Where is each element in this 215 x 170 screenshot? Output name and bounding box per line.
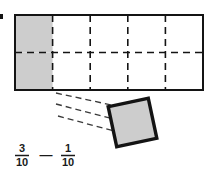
pull-out-guide-1 xyxy=(56,93,116,106)
fraction-term-2-numerator: 1 xyxy=(65,142,71,154)
fraction-term-1-denominator: 10 xyxy=(16,156,28,168)
pull-out-guide-2 xyxy=(56,104,114,119)
fraction-expression: 3 10 — 1 10 xyxy=(15,142,75,168)
edge-artifact-mark xyxy=(0,14,3,19)
shaded-cell-row1-col1 xyxy=(15,15,53,53)
pull-out-guides xyxy=(56,93,116,131)
fraction-term-1-numerator: 3 xyxy=(19,142,25,154)
fraction-term-2: 1 10 xyxy=(61,142,75,168)
fraction-term-1: 3 10 xyxy=(15,142,29,168)
pull-out-guide-3 xyxy=(58,116,114,131)
figure-canvas: 3 10 — 1 10 xyxy=(0,0,215,170)
tenths-bar xyxy=(15,15,203,90)
shaded-cell-row2-col1 xyxy=(15,53,53,91)
removed-tenth-square xyxy=(108,98,157,147)
fraction-term-2-denominator: 10 xyxy=(62,156,74,168)
subtraction-operator: — xyxy=(40,147,53,162)
removed-tenth-square-shape xyxy=(108,98,157,147)
fraction-model-figure: 3 10 — 1 10 xyxy=(0,0,215,170)
